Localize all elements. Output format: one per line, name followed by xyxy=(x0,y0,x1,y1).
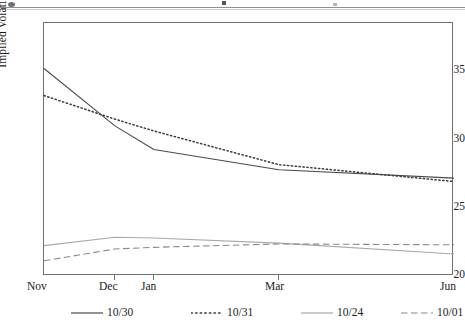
legend-item-10-31: 10/31 xyxy=(191,307,253,319)
scan-artifact-mid xyxy=(222,1,226,5)
legend-swatch-dotted xyxy=(191,308,223,318)
legend-label: 10/24 xyxy=(337,307,363,319)
series-line-10-31 xyxy=(44,96,454,182)
x-tick-label-jan: Jan xyxy=(141,281,156,293)
plot-area xyxy=(43,22,453,275)
legend-item-10-24: 10/24 xyxy=(301,307,363,319)
legend-label: 10/30 xyxy=(107,307,133,319)
x-tick-label-nov: Nov xyxy=(27,281,47,293)
series-layer xyxy=(44,23,454,276)
series-line-10-24 xyxy=(44,237,454,254)
figure-container: Implied Volatility (%) 35 30 25 20 Nov D… xyxy=(0,0,465,325)
legend-swatch-solid xyxy=(71,308,103,318)
legend-label: 10/01 xyxy=(437,307,463,319)
legend-swatch-dashed xyxy=(401,308,433,318)
legend-item-10-01: 10/01 xyxy=(401,307,463,319)
legend-item-10-30: 10/30 xyxy=(71,307,133,319)
scan-artifact-right xyxy=(333,3,337,6)
page-rule-top xyxy=(0,7,465,8)
legend: 10/3010/3110/2410/01 xyxy=(43,303,453,323)
scan-artifact-left xyxy=(8,2,15,7)
legend-swatch-solid xyxy=(301,308,333,318)
x-tick-label-dec: Dec xyxy=(99,281,118,293)
x-tick-label-mar: Mar xyxy=(265,281,284,293)
y-axis-label: Implied Volatility (%) xyxy=(0,0,8,96)
x-tick-label-jun: Jun xyxy=(440,281,456,293)
legend-label: 10/31 xyxy=(227,307,253,319)
page-rule-top-secondary xyxy=(0,9,465,10)
series-line-10-30 xyxy=(44,69,454,179)
series-line-10-01 xyxy=(44,244,454,261)
